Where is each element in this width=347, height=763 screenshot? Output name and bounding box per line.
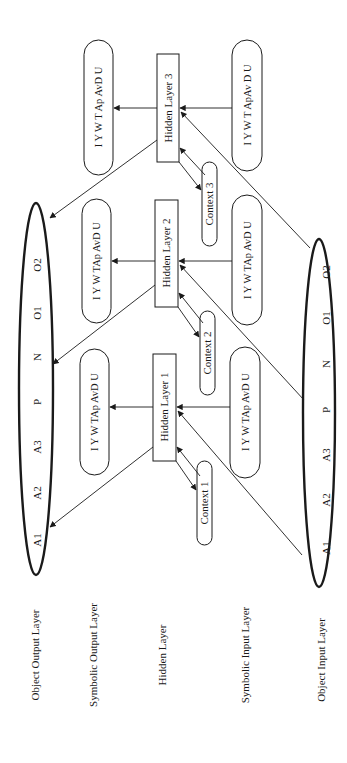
unit-label: N	[31, 353, 43, 361]
layer-label-symbolic-input: Symbolic Input Layer	[239, 606, 251, 703]
contexts: Context 3 Context 2 Context 1	[197, 162, 217, 545]
symbolic-output-label-1: I Y W TAp AvD U	[89, 373, 100, 451]
edge-h2-to-c2	[178, 307, 199, 337]
unit-label: O1	[320, 311, 332, 324]
layer-label-object-output: Object Output Layer	[29, 609, 41, 700]
edge-h1-to-objout	[50, 447, 153, 527]
symbolic-output-label-2: I Y W TAp AvD U	[91, 222, 102, 300]
unit-label: P	[320, 407, 332, 413]
unit-label: A3	[320, 448, 332, 462]
layer-label-symbolic-output: Symbolic Output Layer	[87, 603, 99, 707]
hidden-layer-3-label: Hidden Layer 3	[162, 73, 174, 143]
context-2-label: Context 2	[201, 331, 213, 374]
layer-labels: Object Output Layer Symbolic Output Laye…	[29, 603, 327, 707]
hidden-layer-1-label: Hidden Layer 1	[158, 372, 170, 441]
symbolic-input-label-1: I Y W TAp AvD U	[240, 373, 251, 451]
edge-h3-to-objout	[50, 140, 157, 218]
unit-label: A1	[31, 533, 43, 546]
unit-label: N	[320, 360, 332, 368]
symbolic-input-label-2: I Y W TAp AvD U	[242, 221, 253, 299]
edge-h3-to-c3	[179, 162, 201, 190]
hidden-layer-2-label: Hidden Layer 2	[160, 218, 172, 287]
context-3-label: Context 3	[203, 182, 215, 226]
unit-label: A2	[31, 486, 43, 499]
unit-label: O2	[320, 265, 332, 278]
unit-label: A1	[320, 541, 332, 554]
hidden-layers: Hidden Layer 3 Hidden Layer 2 Hidden Lay…	[153, 54, 179, 461]
unit-label: O1	[31, 306, 43, 319]
edge-c1-to-h1	[177, 447, 200, 476]
context-1-label: Context 1	[198, 481, 210, 524]
layer-label-hidden: Hidden Layer	[156, 624, 168, 685]
edge-h1-to-c1	[176, 461, 196, 490]
symbolic-output-label-3: I Y W T Ap AvD U	[93, 66, 104, 147]
symbolic-input-layer: I Y W T ApAv D U I Y W TAp AvD U I Y W T…	[230, 40, 262, 478]
edge-c2-to-h2	[179, 293, 203, 323]
layer-label-object-input: Object Input Layer	[315, 618, 327, 702]
unit-label: A2	[320, 493, 332, 506]
connections	[50, 108, 310, 555]
symbolic-input-label-3: I Y W T ApAv D U	[242, 64, 253, 146]
network-architecture-diagram: A1 A2 A3 P N O1 O2 A1 A2 A3 P N O1 O2 I …	[0, 0, 347, 763]
object-output-layer: A1 A2 A3 P N O1 O2	[19, 203, 53, 575]
unit-label: A3	[31, 440, 43, 454]
unit-label: P	[31, 399, 43, 405]
unit-label: O2	[31, 258, 43, 271]
edge-c3-to-h3	[180, 148, 205, 175]
symbolic-output-layer: I Y W T Ap AvD U I Y W TAp AvD U I Y W T…	[80, 40, 113, 475]
object-input-layer: A1 A2 A3 P N O1 O2	[303, 239, 335, 587]
